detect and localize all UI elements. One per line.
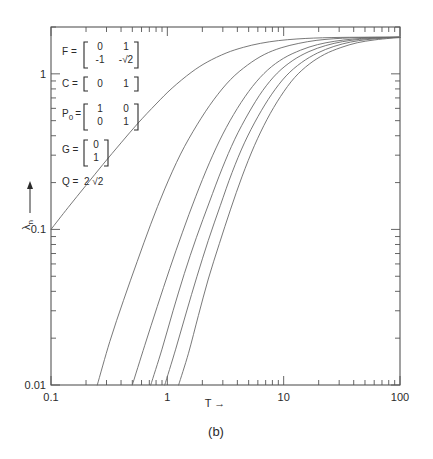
series-curve-1 [51, 37, 400, 229]
curves-layer [51, 37, 400, 385]
bracket-left [84, 104, 88, 130]
caption-layer: (b) [208, 424, 224, 439]
figure-caption: (b) [208, 424, 224, 439]
matrix-cell: 0 [97, 41, 103, 52]
matrix-cell: 1 [123, 116, 129, 127]
x-tick-label: 10 [278, 391, 290, 403]
bracket-left [84, 140, 88, 166]
loglog-chart: 0.11101000.010.11T→λn F =01-1-√2C =01P0=… [0, 0, 433, 459]
annotation-value: 2 √2 [84, 176, 104, 187]
series-curve-3 [132, 37, 400, 385]
x-tick-label: 1 [164, 391, 170, 403]
annotation-layer: F =01-1-√2C =01P0=1001G =01Q =2 √2 [62, 41, 138, 187]
annotation-name: F = [62, 46, 77, 57]
bracket-right [134, 77, 138, 91]
matrix-cell: 0 [93, 139, 99, 150]
matrix-cell: 1 [93, 152, 99, 163]
matrix-cell: 0 [123, 103, 129, 114]
y-tick-label: 1 [40, 68, 46, 80]
axis-labels-layer: 0.11101000.010.11T→λn [20, 68, 409, 409]
annotation-Q: Q =2 √2 [62, 176, 104, 187]
bracket-left [84, 42, 88, 68]
x-axis-title: T→ [205, 397, 226, 409]
plot-frame [51, 27, 400, 385]
series-curve-5 [165, 37, 400, 385]
matrix-cell: 0 [97, 116, 103, 127]
annotation-name: G = [62, 144, 79, 155]
x-tick-label: 0.1 [43, 391, 58, 403]
matrix-cell: 0 [97, 78, 103, 89]
annotation-name: P0= [62, 108, 81, 122]
y-axis-arrow-head [27, 181, 33, 189]
bracket-left [84, 77, 88, 91]
annotation-G: G =01 [62, 139, 108, 166]
bracket-right [134, 42, 138, 68]
matrix-cell: -√2 [119, 54, 134, 65]
y-tick-label: 0.01 [25, 379, 46, 391]
figure-panel: 0.11101000.010.11T→λn F =01-1-√2C =01P0=… [0, 0, 433, 459]
annotation-P0: P0=1001 [62, 103, 138, 130]
axes-layer [51, 27, 400, 385]
matrix-cell: 1 [123, 78, 129, 89]
annotation-name: C = [62, 78, 78, 89]
series-curve-2 [97, 37, 400, 385]
y-axis-title: λn [20, 181, 35, 230]
annotation-C: C =01 [62, 77, 138, 91]
matrix-cell: 1 [123, 41, 129, 52]
x-tick-label: 100 [391, 391, 409, 403]
annotation-name: Q = [62, 176, 79, 187]
matrix-cell: -1 [96, 54, 105, 65]
series-curve-6 [179, 38, 400, 385]
matrix-cell: 1 [97, 103, 103, 114]
annotation-F: F =01-1-√2 [62, 41, 138, 68]
